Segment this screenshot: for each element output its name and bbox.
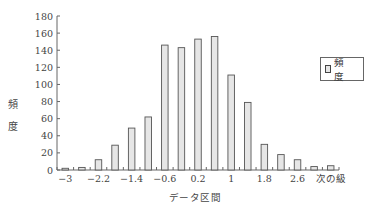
histogram-bar [195,39,202,170]
histogram-bar [327,166,334,170]
histogram-bar [112,145,119,170]
x-tick-label: 2.6 [290,173,305,184]
histogram-bar [261,144,268,170]
x-axis-label: データ区間 [150,190,240,204]
y-axis-label: 頻 度 [6,94,20,138]
x-tick-label: −1.4 [120,173,143,184]
histogram-bar [128,128,135,170]
legend-swatch-icon [325,65,331,73]
plot-area: 020406080100120140160180−3−2.2−1.4−0.60.… [0,0,384,217]
histogram-bar [79,167,86,170]
histogram-chart: 020406080100120140160180−3−2.2−1.4−0.60.… [0,0,384,217]
y-tick-label: 0 [47,165,53,176]
histogram-bar [162,45,169,170]
y-tick-label: 120 [35,62,53,73]
histogram-bar [178,48,185,170]
y-axis-label-char-2: 度 [6,116,20,138]
histogram-bar [62,168,68,170]
x-tick-label: −0.6 [153,173,176,184]
histogram-bar [311,167,318,170]
y-tick-label: 20 [41,147,53,158]
x-tick-label: −2.2 [87,173,110,184]
histogram-bar [278,155,285,170]
y-tick-label: 160 [35,28,53,39]
histogram-bar [95,160,102,170]
x-tick-label: −3 [58,173,72,184]
y-tick-label: 40 [41,130,53,141]
y-axis-label-char-1: 頻 [6,94,20,116]
x-tick-label: 1.8 [257,173,272,184]
x-tick-label: 1 [228,173,234,184]
x-tick-label: 0.2 [190,173,205,184]
histogram-bar [228,75,235,170]
y-tick-label: 140 [35,45,53,56]
histogram-bar [294,160,301,170]
legend: 頻 度 [320,57,364,81]
histogram-bar [145,117,152,170]
y-tick-label: 80 [41,96,53,107]
x-tick-label: 次の級 [316,173,346,184]
y-tick-label: 180 [35,11,53,22]
histogram-bar [211,37,218,170]
y-tick-label: 60 [41,113,53,124]
y-tick-label: 100 [35,79,53,90]
legend-label: 頻 度 [334,55,363,83]
histogram-bar [245,102,252,170]
